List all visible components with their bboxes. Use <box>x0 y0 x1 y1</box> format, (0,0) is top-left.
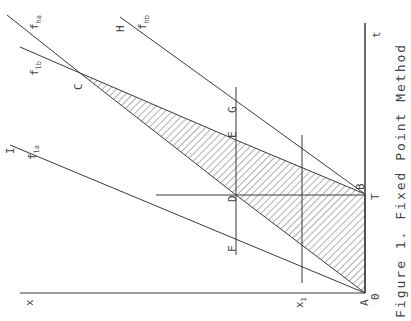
fixed-point-diagram: x x1 A 0 T B t D E G F C H I fha flb fhb… <box>0 0 411 321</box>
shaded-region <box>80 73 365 293</box>
label-x-axis: x <box>23 299 36 306</box>
label-t-axis: t <box>370 31 383 38</box>
label-F: F <box>226 245 239 252</box>
label-D: D <box>226 195 239 202</box>
label-T: T <box>369 193 382 200</box>
label-x1: x1 <box>293 297 308 308</box>
label-C: C <box>72 83 85 90</box>
label-G: G <box>226 106 239 113</box>
label-origin: 0 <box>369 293 382 300</box>
figure-caption: Figure 1. Fixed Point Method <box>393 43 408 318</box>
label-f-lb: flb <box>28 61 43 76</box>
label-H: H <box>114 25 127 32</box>
label-f-hb: fhb <box>136 15 151 30</box>
label-E: E <box>226 131 239 138</box>
label-I: I <box>4 147 17 154</box>
f-ha-line <box>7 15 80 73</box>
f-lb-line <box>20 47 80 73</box>
label-B: B <box>354 183 367 190</box>
label-f-ha: fha <box>28 15 43 30</box>
